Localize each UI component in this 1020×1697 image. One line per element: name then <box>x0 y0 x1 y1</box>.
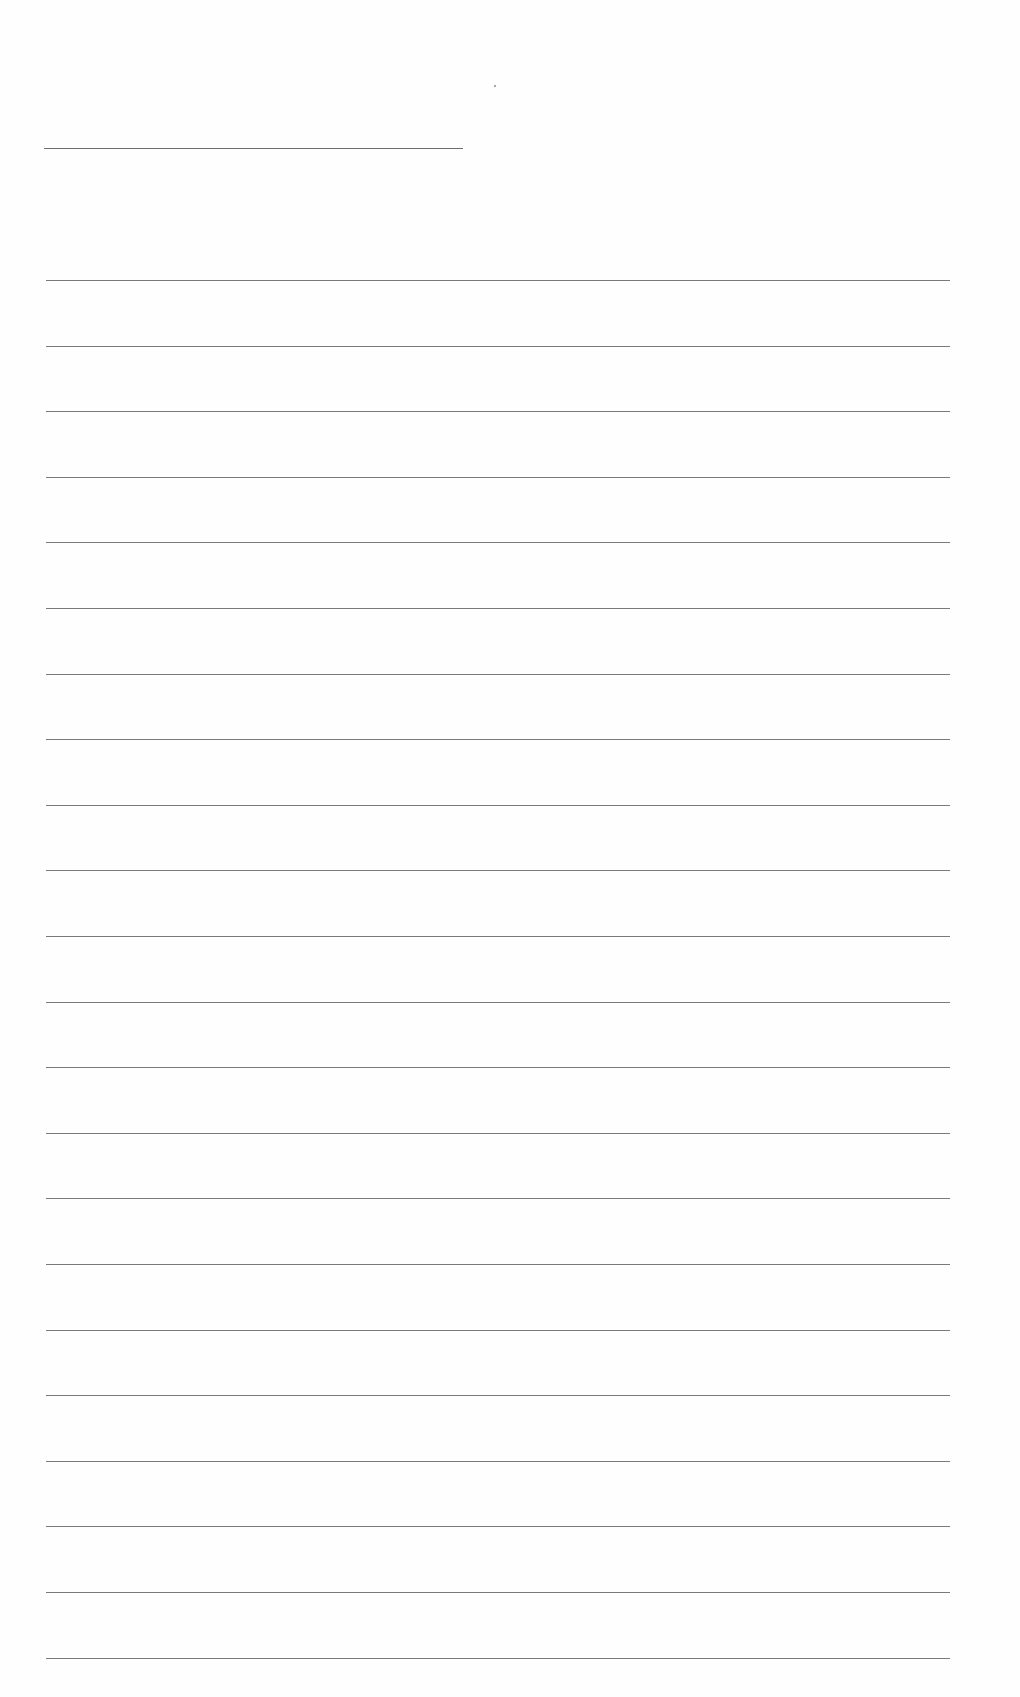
ruled-line <box>46 1395 950 1396</box>
ruled-line <box>46 346 950 347</box>
ruled-line <box>46 477 950 478</box>
lined-paper-page <box>0 0 1020 1697</box>
ruled-line <box>46 1198 950 1199</box>
ruled-line <box>46 608 950 609</box>
ruled-line <box>46 1592 950 1593</box>
ruled-line <box>46 1526 950 1527</box>
ruled-line <box>46 805 950 806</box>
ruled-line <box>46 1002 950 1003</box>
ruled-line <box>46 674 950 675</box>
ruled-line <box>46 739 950 740</box>
ruled-line <box>46 936 950 937</box>
ruled-line <box>46 411 950 412</box>
ruled-line <box>46 1133 950 1134</box>
ruled-line <box>46 542 950 543</box>
ruled-line <box>46 870 950 871</box>
title-write-line <box>44 148 463 149</box>
ruled-line <box>46 1658 950 1659</box>
ruled-line <box>46 280 950 281</box>
ruled-line <box>46 1067 950 1068</box>
ruled-line <box>46 1264 950 1265</box>
scan-speck <box>494 85 496 87</box>
ruled-line <box>46 1330 950 1331</box>
ruled-line <box>46 1461 950 1462</box>
